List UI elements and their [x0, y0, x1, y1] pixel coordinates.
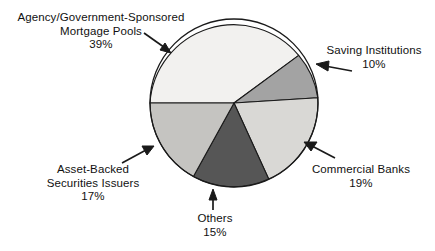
slice-value: 10%	[318, 58, 430, 72]
slice-label-line1: Saving Institutions	[318, 44, 430, 58]
slice-label-agency-mortgage-pools: Agency/Government-Sponsored Mortgage Poo…	[6, 11, 196, 52]
arrow-others	[209, 189, 217, 210]
slice-label-line1: Others	[185, 212, 245, 226]
slice-label-line1: Asset-Backed	[28, 163, 158, 177]
slice-value: 15%	[185, 226, 245, 240]
slice-label-line2: Securities Issuers	[28, 177, 158, 191]
slice-label-others: Others 15%	[185, 212, 245, 239]
slice-value: 17%	[28, 190, 158, 204]
arrow-asset-backed-securities-issuers	[122, 146, 154, 163]
slice-label-asset-backed-securities-issuers: Asset-Backed Securities Issuers 17%	[28, 163, 158, 204]
slice-label-line1: Commercial Banks	[300, 163, 422, 177]
slice-label-line1: Agency/Government-Sponsored	[6, 11, 196, 25]
slice-value: 39%	[6, 38, 196, 52]
slice-value: 19%	[300, 177, 422, 191]
slice-label-saving-institutions: Saving Institutions 10%	[318, 44, 430, 71]
slice-label-line2: Mortgage Pools	[6, 25, 196, 39]
slice-label-commercial-banks: Commercial Banks 19%	[300, 163, 422, 190]
arrow-commercial-banks	[304, 142, 335, 158]
pie-chart-figure: Agency/Government-Sponsored Mortgage Poo…	[0, 0, 435, 251]
